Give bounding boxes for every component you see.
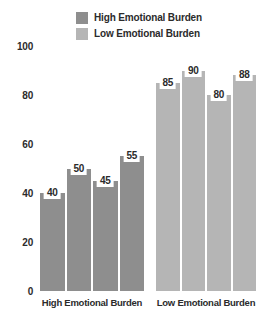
y-tick-label: 60 (22, 139, 33, 150)
chart-legend: High Emotional Burden Low Emotional Burd… (76, 11, 202, 40)
bar-low-2[interactable]: 90 (182, 71, 206, 292)
bar-chart: High Emotional Burden Low Emotional Burd… (0, 0, 256, 322)
bar-slot: 80 (207, 46, 231, 291)
y-tick-label: 40 (22, 188, 33, 199)
y-tick-label: 20 (22, 237, 33, 248)
legend-item-low-emotional-burden: Low Emotional Burden (76, 27, 202, 40)
bar-value-label: 55 (123, 149, 140, 162)
legend-label-high: High Emotional Burden (94, 12, 202, 24)
x-axis: High Emotional Burden Low Emotional Burd… (40, 297, 256, 317)
bar-value-label: 85 (159, 76, 176, 89)
y-tick-label: 100 (17, 41, 33, 52)
bar-group-low-emotional-burden: 85 90 80 88 (156, 46, 256, 291)
bar-value-label: 45 (97, 174, 114, 187)
bar-high-4[interactable]: 55 (120, 156, 145, 291)
bar-slot: 55 (120, 46, 145, 291)
bar-value-label: 40 (44, 186, 61, 199)
bar-high-2[interactable]: 50 (67, 169, 92, 292)
bar-slot: 45 (93, 46, 118, 291)
bar-low-1[interactable]: 85 (156, 83, 180, 291)
bar-value-label: 50 (70, 162, 87, 175)
bar-high-1[interactable]: 40 (40, 193, 65, 291)
bar-slot: 50 (67, 46, 92, 291)
bar-low-4[interactable]: 88 (233, 75, 257, 291)
legend-swatch-icon-low (76, 28, 88, 40)
legend-swatch-icon-high (76, 12, 88, 24)
bar-slot: 85 (156, 46, 180, 291)
y-axis: 100 80 60 40 20 0 (0, 0, 40, 322)
y-tick-label: 0 (28, 286, 33, 297)
x-axis-label-high-emotional-burden: High Emotional Burden (40, 297, 144, 308)
bar-slot: 90 (182, 46, 206, 291)
y-tick-label: 80 (22, 90, 33, 101)
bar-value-label: 80 (210, 88, 227, 101)
bar-high-3[interactable]: 45 (93, 181, 118, 291)
bar-group-high-emotional-burden: 40 50 45 55 (40, 46, 144, 291)
bar-slot: 88 (233, 46, 257, 291)
x-axis-label-low-emotional-burden: Low Emotional Burden (156, 297, 256, 308)
bar-value-label: 90 (185, 64, 202, 77)
bar-value-label: 88 (236, 68, 253, 81)
legend-label-low: Low Emotional Burden (94, 28, 200, 40)
bar-low-3[interactable]: 80 (207, 95, 231, 291)
bar-slot: 40 (40, 46, 65, 291)
plot-area: 40 50 45 55 85 (40, 46, 256, 291)
legend-item-high-emotional-burden: High Emotional Burden (76, 11, 202, 24)
